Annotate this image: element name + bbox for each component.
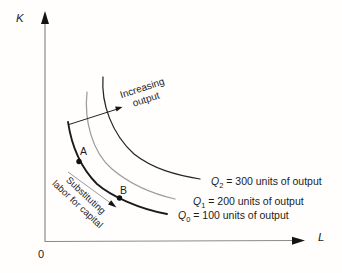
y-axis-arrowhead-icon xyxy=(41,11,49,24)
point-a-marker xyxy=(76,159,81,164)
x-axis-label: L xyxy=(318,231,324,244)
isoquant-label-q0: Q0 = 100 units of output xyxy=(178,209,289,222)
q2-symbol: Q xyxy=(211,175,219,187)
point-b-label: B xyxy=(120,184,127,197)
substitution-arrowhead-icon xyxy=(108,200,117,207)
origin-label: 0 xyxy=(38,248,44,261)
q0-text: = 100 units of output xyxy=(190,209,288,221)
isoquant-figure: K L 0 A B Increasing output Substituting… xyxy=(0,0,342,273)
plot-canvas xyxy=(0,0,342,273)
isoquant-label-q2: Q2 = 300 units of output xyxy=(211,175,322,188)
x-axis-arrowhead-icon xyxy=(292,237,305,245)
q1-text: = 200 units of output xyxy=(205,195,303,207)
x-axis-line xyxy=(45,241,293,242)
q1-symbol: Q xyxy=(193,195,201,207)
q0-symbol: Q xyxy=(178,209,186,221)
y-axis-label: K xyxy=(16,12,24,25)
point-a-label: A xyxy=(80,145,87,158)
q2-text: = 300 units of output xyxy=(223,175,321,187)
isoquant-label-q1: Q1 = 200 units of output xyxy=(193,195,304,208)
